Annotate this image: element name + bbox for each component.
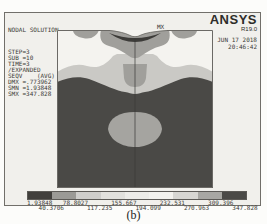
colorbar-segment <box>101 192 125 199</box>
solution-info-lines: STEP=3SUB =10TIME=3/EXPANDEDSEQV (AVG)DM… <box>8 49 59 97</box>
colorbar-tick-label: 155.667 <box>111 200 136 206</box>
timestamp: JUN 17 2018 20:46:42 <box>210 36 257 50</box>
ansys-figure-frame: NODAL SOLUTION STEP=3SUB =10TIME=3/EXPAN… <box>4 12 261 206</box>
colorbar-tick-label: 232.531 <box>160 200 185 206</box>
colorbar-tick-label: 309.396 <box>208 200 233 206</box>
colorbar-segment <box>52 192 76 199</box>
colorbar-segment <box>125 192 149 199</box>
colorbar-segment <box>149 192 173 199</box>
solution-info-line: SMX =347.828 <box>8 91 59 97</box>
stress-contour-plot <box>57 30 213 188</box>
colorbar-segment <box>76 192 100 199</box>
time-text: 20:46:42 <box>210 43 257 50</box>
max-stress-label: MX <box>157 24 164 30</box>
colorbar-segment <box>173 192 197 199</box>
colorbar-segment <box>28 192 52 199</box>
ansys-logo: ANSYS <box>210 13 257 26</box>
brand-block: ANSYS R19.0 JUN 17 2018 20:46:42 <box>210 13 257 50</box>
colorbar-segment <box>198 192 222 199</box>
colorbar-tick-label: 78.8027 <box>63 200 88 206</box>
colorbar-segment <box>222 192 246 199</box>
date-text: JUN 17 2018 <box>210 36 257 43</box>
solution-info-title: NODAL SOLUTION <box>8 27 59 33</box>
solution-info-block: NODAL SOLUTION STEP=3SUB =10TIME=3/EXPAN… <box>8 15 59 109</box>
figure-caption: (b) <box>0 208 267 223</box>
